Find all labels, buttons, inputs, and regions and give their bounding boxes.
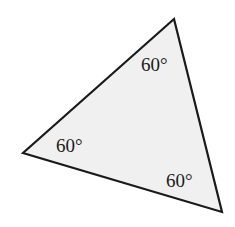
geometry-diagram: 60° 60° 60° [0, 0, 235, 227]
angle-label-bottom-right: 60° [166, 171, 193, 190]
angle-label-left: 60° [56, 136, 83, 155]
triangle-shape [0, 0, 235, 227]
angle-label-top: 60° [141, 55, 168, 74]
